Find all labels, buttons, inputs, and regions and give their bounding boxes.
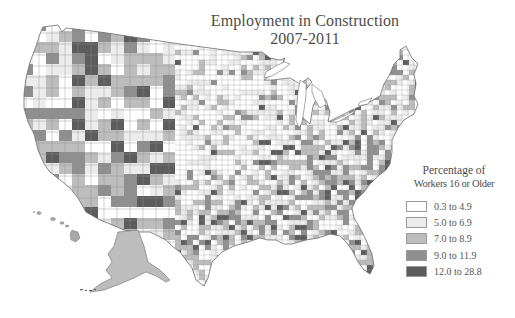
legend-swatch — [406, 217, 427, 228]
map-title-line2: 2007-2011 — [200, 30, 410, 48]
legend-label: 5.0 to 6.9 — [434, 217, 472, 228]
legend-item-1: 5.0 to 6.9 — [404, 214, 514, 230]
map-title: Employment in Construction 2007-2011 — [200, 12, 410, 48]
legend-swatch — [406, 201, 427, 212]
legend-items: 0.3 to 4.9 5.0 to 6.9 7.0 to 8.9 9.0 to … — [404, 198, 514, 279]
legend-label: 7.0 to 8.9 — [434, 233, 472, 244]
legend-title-line2: Workers 16 or Older — [400, 177, 508, 190]
legend-item-4: 12.0 to 28.8 — [404, 263, 514, 279]
legend-swatch — [406, 266, 427, 277]
legend-label: 12.0 to 28.8 — [434, 266, 482, 277]
legend-title: Percentage of Workers 16 or Older — [400, 164, 508, 190]
legend-label: 0.3 to 4.9 — [434, 201, 472, 212]
hawaii-inset — [33, 211, 80, 242]
legend-item-3: 9.0 to 11.9 — [404, 247, 514, 263]
map-title-line1: Employment in Construction — [200, 12, 410, 30]
legend-item-2: 7.0 to 8.9 — [404, 231, 514, 247]
legend-label: 9.0 to 11.9 — [434, 250, 476, 261]
legend-swatch — [406, 233, 427, 244]
map-legend: Percentage of Workers 16 or Older 0.3 to… — [404, 164, 514, 279]
legend-swatch — [406, 250, 427, 261]
legend-item-0: 0.3 to 4.9 — [404, 198, 514, 214]
legend-title-line1: Percentage of — [400, 164, 508, 177]
